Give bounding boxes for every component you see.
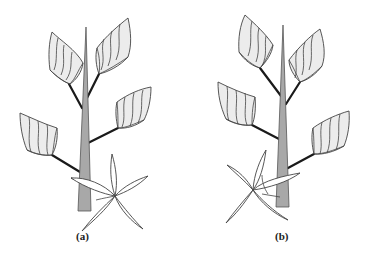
leaf-upper-left [239, 15, 273, 68]
branch-upper-right [87, 74, 99, 98]
leaf-upper-right [289, 29, 324, 82]
star-flower [226, 150, 300, 223]
leaf-right [312, 111, 349, 154]
branch-upper-right [286, 82, 300, 104]
figure-canvas [0, 0, 367, 257]
branch-left [52, 155, 80, 172]
branch-right [288, 154, 314, 168]
panel-b [218, 15, 349, 223]
branch-upper-left [260, 68, 281, 96]
leaf-left [20, 113, 57, 155]
branch-upper-left [69, 84, 82, 108]
branch-right [88, 128, 118, 143]
leaf-right [116, 87, 151, 128]
leaf-upper-right [96, 18, 131, 74]
panel-label-b: (b) [275, 230, 288, 242]
leaf-left [218, 82, 255, 125]
leaf-upper-left [49, 32, 83, 84]
branch-left [252, 125, 279, 139]
panel-label-a: (a) [76, 230, 89, 242]
panel-a [20, 18, 151, 231]
